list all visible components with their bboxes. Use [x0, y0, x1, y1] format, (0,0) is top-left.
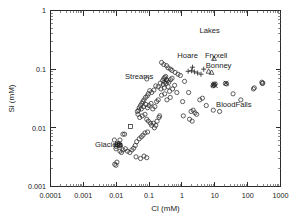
series-hoare	[186, 65, 207, 77]
data-point-circle	[175, 90, 179, 94]
x-tick-label: 100	[242, 191, 254, 200]
data-point-circle	[181, 100, 185, 104]
data-point-circle	[231, 92, 235, 96]
data-point-plus	[186, 69, 191, 74]
annotation-hoare: Hoare	[177, 51, 198, 60]
annotation-glaciers: Glaciers	[95, 140, 123, 149]
y-tick-label: 0.1	[36, 65, 46, 74]
x-tick-label: 0.0001	[40, 191, 62, 200]
annotation-bloodfalls: BloodFalls	[216, 100, 252, 109]
data-point-circle	[187, 90, 191, 94]
y-tick-label: 0.001	[28, 182, 46, 191]
annotation-lakes: Lakes	[200, 26, 220, 35]
data-point-plus	[195, 71, 200, 76]
data-point-plus	[190, 65, 195, 70]
data-point-circle	[165, 98, 169, 102]
annotation-bonney: Bonney	[206, 61, 232, 70]
y-tick-label: 1	[42, 6, 46, 15]
data-point-circle	[252, 86, 256, 90]
data-point-circle	[217, 109, 221, 113]
x-tick-label: 0.001	[74, 191, 92, 200]
data-point-circle	[154, 84, 158, 88]
annotation-streams: Streams	[125, 72, 153, 81]
series-glaciers	[112, 132, 126, 167]
data-point-circle	[204, 103, 208, 107]
data-point-plus	[198, 72, 203, 77]
x-tick-label: 1000	[273, 191, 289, 200]
data-point-plus	[192, 69, 197, 74]
x-tick-label: 10	[211, 191, 219, 200]
chart-canvas: 0.00010.0010.010.111010010000.0010.010.1…	[0, 0, 301, 224]
data-point-square	[128, 125, 132, 129]
x-axis-title: Cl (mM)	[151, 204, 180, 213]
data-point-circle	[211, 108, 215, 112]
data-point-circle	[173, 83, 177, 87]
annotation-fryxell: Fryxell	[205, 51, 228, 60]
data-point-circle	[134, 155, 138, 159]
y-axis-title: Si (mM)	[7, 84, 16, 112]
x-tick-label: 0.1	[144, 191, 154, 200]
data-point-circle	[145, 130, 149, 134]
y-tick-label: 0.01	[32, 124, 46, 133]
data-point-plus	[189, 68, 194, 73]
data-point-circle	[181, 114, 185, 118]
scatter-plot-figure: 0.00010.0010.010.111010010000.0010.010.1…	[0, 0, 301, 224]
data-point-circle	[182, 79, 186, 83]
x-tick-label: 0.01	[109, 191, 123, 200]
x-tick-label: 1	[180, 191, 184, 200]
